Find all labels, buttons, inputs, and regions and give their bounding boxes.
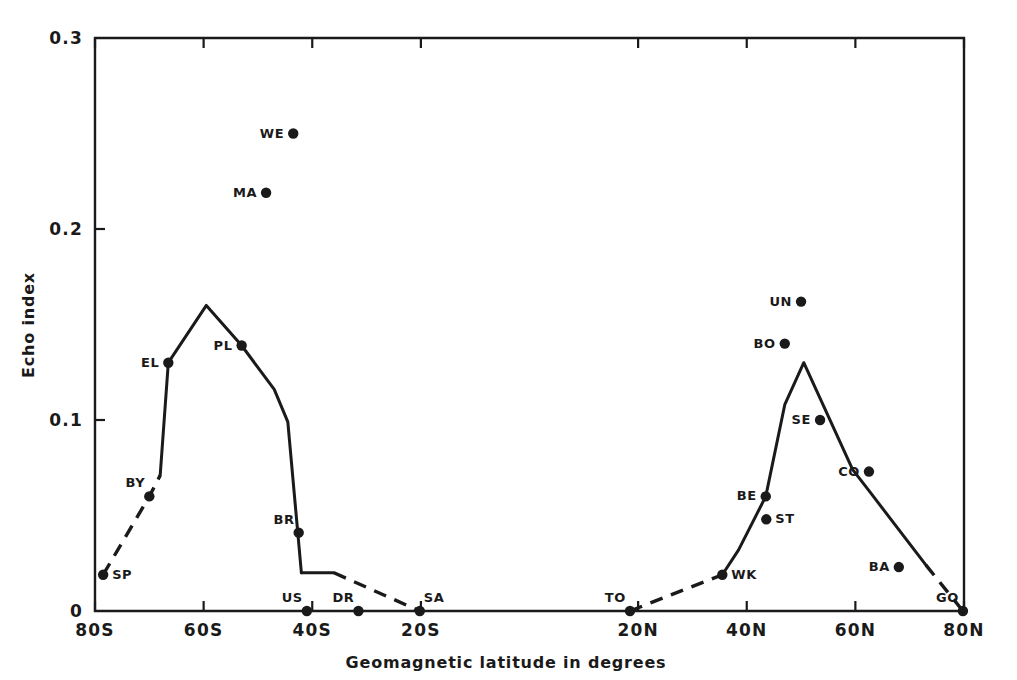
x-tick-label-80S: 80S — [75, 620, 115, 640]
plot-frame — [95, 38, 964, 611]
data-point-ST — [761, 514, 771, 524]
data-point-WK — [717, 570, 727, 580]
series-northern-dashed-lead — [630, 575, 722, 611]
data-point-EL — [163, 358, 173, 368]
data-point-BR — [293, 527, 303, 537]
plot-border — [95, 38, 964, 611]
data-point-MA — [261, 188, 271, 198]
chart-canvas: SPBYELMAWEPLBRUSDRSATOWKBESTBOUNSECOBAGO… — [0, 0, 1017, 680]
x-tick-label-20N: 20N — [617, 620, 659, 640]
data-point-CO — [864, 466, 874, 476]
x-tick-label-40N: 40N — [726, 620, 768, 640]
point-label-UN: UN — [769, 294, 792, 309]
y-axis-tick-labels: 00.10.20.3 — [49, 28, 83, 621]
y-tick-label-0.3: 0.3 — [49, 28, 83, 48]
x-tick-label-60S: 60S — [184, 620, 224, 640]
point-label-WK: WK — [731, 567, 757, 582]
point-label-CO: CO — [838, 464, 860, 479]
data-point-US — [302, 606, 312, 616]
data-point-BY — [144, 491, 154, 501]
point-label-TO: TO — [605, 590, 626, 605]
data-point-WE — [288, 128, 298, 138]
point-label-DR: DR — [332, 590, 354, 605]
point-label-US: US — [282, 590, 303, 605]
data-point-SA — [415, 606, 425, 616]
y-tick-label-0.1: 0.1 — [49, 410, 83, 430]
point-label-MA: MA — [233, 185, 257, 200]
point-label-BR: BR — [274, 512, 295, 527]
point-label-BY: BY — [125, 475, 145, 490]
series-northern-solid — [722, 363, 926, 575]
point-label-BA: BA — [869, 559, 890, 574]
data-point-labels: SPBYELMAWEPLBRUSDRSATOWKBESTBOUNSECOBAGO — [112, 126, 959, 606]
data-point-SE — [815, 415, 825, 425]
point-label-SE: SE — [792, 412, 811, 427]
y-tick-label-0: 0 — [70, 601, 83, 621]
axis-ticks — [95, 38, 964, 611]
data-points — [98, 128, 968, 616]
data-point-BA — [894, 562, 904, 572]
y-axis-title: Echo index — [19, 272, 38, 378]
point-label-BO: BO — [754, 336, 776, 351]
data-point-DR — [353, 606, 363, 616]
point-label-SP: SP — [112, 567, 132, 582]
point-label-WE: WE — [260, 126, 284, 141]
point-label-EL: EL — [141, 355, 159, 370]
x-tick-label-60N: 60N — [835, 620, 877, 640]
x-axis-tick-labels: 80S60S40S20S20N40N60N80N — [75, 620, 985, 640]
data-point-BO — [780, 338, 790, 348]
data-point-PL — [236, 340, 246, 350]
point-label-BE: BE — [737, 488, 757, 503]
point-label-GO: GO — [936, 590, 959, 605]
data-point-BE — [761, 491, 771, 501]
point-label-ST: ST — [775, 511, 794, 526]
point-label-PL: PL — [214, 338, 233, 353]
data-point-TO — [625, 606, 635, 616]
point-label-SA: SA — [424, 590, 445, 605]
y-tick-label-0.2: 0.2 — [49, 219, 83, 239]
data-point-SP — [98, 570, 108, 580]
x-axis-title: Geomagnetic latitude in degrees — [346, 653, 667, 672]
data-point-GO — [958, 606, 968, 616]
x-tick-label-40S: 40S — [292, 620, 332, 640]
x-tick-label-80N: 80N — [943, 620, 985, 640]
x-tick-label-20S: 20S — [401, 620, 441, 640]
echo-index-chart: SPBYELMAWEPLBRUSDRSATOWKBESTBOUNSECOBAGO… — [0, 0, 1017, 680]
data-point-UN — [796, 296, 806, 306]
